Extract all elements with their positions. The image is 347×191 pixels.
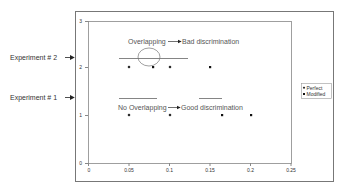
data-point bbox=[221, 114, 223, 116]
chart: 0 1 2 3 0 0.05 0.1 0.15 0.2 0.25 Experim… bbox=[0, 0, 347, 191]
y-tick: 0 bbox=[79, 160, 82, 166]
square-icon bbox=[303, 93, 305, 95]
legend: Perfect Modified bbox=[302, 84, 332, 99]
data-point bbox=[152, 66, 154, 68]
legend-perfect: Perfect bbox=[307, 85, 323, 91]
x-tick: 0.25 bbox=[286, 167, 296, 173]
x-tick: 0.1 bbox=[166, 167, 173, 173]
y-tick: 1 bbox=[79, 112, 82, 118]
x-tick: 0.05 bbox=[124, 167, 134, 173]
y-tick: 3 bbox=[79, 18, 82, 24]
data-point bbox=[209, 66, 211, 68]
experiment-labels: Experiment # 2 Experiment # 1 bbox=[10, 54, 74, 102]
experiment-1-label: Experiment # 1 bbox=[10, 94, 57, 102]
good-discrimination-text: Good discrimination bbox=[181, 104, 243, 111]
x-tick: 0.15 bbox=[205, 167, 215, 173]
overlapping-text: Overlapping bbox=[128, 38, 166, 46]
x-tick: 0 bbox=[88, 167, 91, 173]
experiment-2-label: Experiment # 2 bbox=[10, 54, 57, 62]
bad-discrimination-text: Bad discrimination bbox=[182, 38, 239, 45]
no-overlapping-text: No Overlapping bbox=[118, 104, 167, 112]
data-point bbox=[250, 114, 252, 116]
x-tick: 0.2 bbox=[247, 167, 254, 173]
legend-modified: Modified bbox=[307, 91, 326, 97]
y-tick: 2 bbox=[79, 64, 82, 70]
